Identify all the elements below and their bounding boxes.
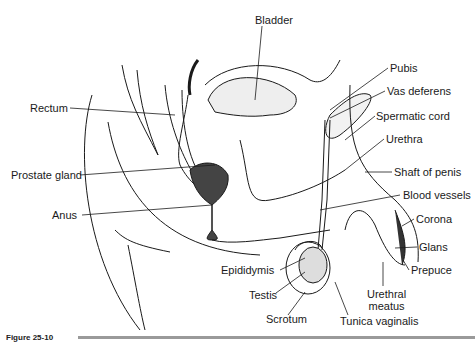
label-scrotum: Scrotum [266,313,307,325]
label-anus: Anus [52,209,77,221]
label-vas-deferens: Vas deferens [387,85,451,97]
label-bladder: Bladder [255,14,293,26]
label-pubis: Pubis [390,62,418,74]
label-urethral-meatus: Urethral meatus [367,288,406,312]
label-epididymis: Epididymis [221,264,274,276]
figure-caption: Figure 25-10 [6,333,53,342]
label-prostate-gland: Prostate gland [11,169,82,181]
label-rectum: Rectum [30,102,68,114]
label-corona: Corona [416,213,452,225]
label-glans: Glans [419,241,448,253]
label-blood-vessels: Blood vessels [403,189,471,201]
prostate-shape [190,163,228,240]
testis-shape [299,247,327,283]
anatomy-diagram: Bladder Pubis Vas deferens Spermatic cor… [0,0,475,342]
label-testis: Testis [249,289,277,301]
label-shaft-of-penis: Shaft of penis [394,166,461,178]
label-urethra: Urethra [386,133,423,145]
pubis-shape [326,94,371,139]
label-spermatic-cord: Spermatic cord [376,110,450,122]
caption-rule [78,336,475,339]
label-tunica-vaginalis: Tunica vaginalis [340,315,418,327]
label-prepuce: Prepuce [411,264,452,276]
bladder-outline [205,60,340,85]
